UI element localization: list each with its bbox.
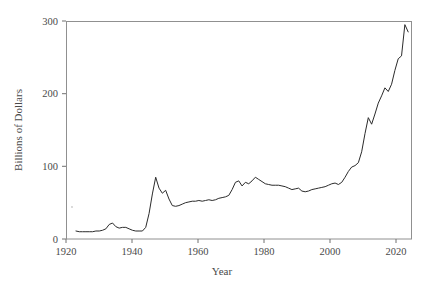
y-tick-label: 100 [42, 161, 58, 172]
chart-figure: 0 100 200 300 1920 1940 1960 1980 2000 2… [0, 0, 434, 287]
y-tick-label: 0 [53, 234, 58, 245]
x-tick-label: 1940 [122, 246, 143, 257]
y-tick-labels: 0 100 200 300 [42, 16, 58, 245]
x-tick-label: 1920 [56, 246, 77, 257]
y-axis-title: Billions of Dollars [12, 89, 24, 171]
y-tick-marks [62, 21, 66, 239]
y-tick-label: 300 [42, 16, 58, 27]
x-tick-label: 2020 [386, 246, 407, 257]
plot-frame [67, 22, 412, 240]
data-series-line [76, 25, 408, 232]
y-tick-label: 200 [42, 88, 58, 99]
scan-artifact-speck [71, 206, 73, 208]
x-tick-label: 2000 [320, 246, 341, 257]
x-tick-label: 1980 [254, 246, 275, 257]
x-axis-title: Year [212, 265, 233, 277]
x-tick-labels: 1920 1940 1960 1980 2000 2020 [56, 246, 407, 257]
x-tick-label: 1960 [188, 246, 209, 257]
line-chart-svg: 0 100 200 300 1920 1940 1960 1980 2000 2… [0, 0, 434, 287]
x-tick-marks [66, 239, 396, 243]
